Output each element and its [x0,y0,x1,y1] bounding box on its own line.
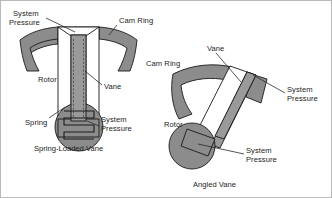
cam-ring-right [99,27,137,71]
label-system-pressure-top-line2: Pressure [9,18,40,27]
label-vane-left-diagram: Vane [104,82,121,91]
label-cam-ring-right-diagram: Cam Ring [146,59,180,68]
caption-angled-vane: Angled Vane [193,180,236,189]
label-system-pressure-bottom-line2: Pressure [101,124,132,133]
label-system-pressure-lower-line1: System [246,146,272,155]
right-diagram-group: Cam Ring Vane System Pressure Rotor Syst… [146,44,318,189]
label-system-pressure-lower-line2: Pressure [246,155,277,164]
left-diagram-group: System Pressure Cam Ring Rotor Vane Spri… [9,9,153,153]
label-system-pressure-upper-line1: System [287,85,313,94]
label-cam-ring-left-diagram: Cam Ring [119,16,153,25]
vane-pump-diagram: System Pressure Cam Ring Rotor Vane Spri… [1,1,332,198]
label-system-pressure-bottom-line1: System [101,115,127,124]
caption-spring-loaded-vane: Spring-Loaded Vane [34,144,103,153]
label-spring: Spring [25,118,47,127]
label-vane-right-diagram: Vane [207,44,224,53]
label-rotor-left-diagram: Rotor [38,75,57,84]
label-system-pressure-top-line1: System [13,9,39,18]
label-system-pressure-upper-line2: Pressure [287,94,318,103]
diagram-canvas: System Pressure Cam Ring Rotor Vane Spri… [0,0,332,198]
label-rotor-right-diagram: Rotor [164,120,183,129]
